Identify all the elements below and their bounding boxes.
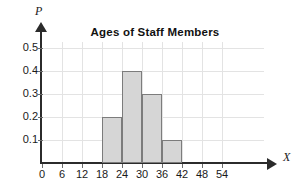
x-axis-label: X (283, 150, 290, 165)
y-axis-tick-mark (38, 140, 43, 141)
y-axis-tick-mark (38, 117, 43, 118)
gridline-horizontal (42, 48, 264, 49)
gridline-horizontal (42, 71, 264, 72)
y-axis-tick-mark (38, 94, 43, 95)
y-axis-tick-mark (38, 48, 43, 49)
gridline-vertical (182, 42, 183, 163)
gridline-vertical (222, 42, 223, 163)
gridline-vertical (202, 42, 203, 163)
x-axis-tick-label: 54 (210, 168, 234, 180)
y-axis-tick-label: 0.1 (4, 134, 38, 145)
x-axis-arrowhead-icon (267, 158, 277, 170)
histogram-bar (102, 117, 122, 163)
y-axis-tick-mark (38, 71, 43, 72)
y-axis-tick-label: 0.2 (4, 111, 38, 122)
histogram-bar (142, 94, 162, 163)
histogram-bar (162, 140, 182, 163)
chart-container: Ages of Staff Members P X 0.10.20.30.40.… (0, 0, 304, 195)
y-axis-line (40, 30, 42, 164)
y-axis-tick-labels: 0.10.20.30.40.5 (0, 0, 38, 195)
y-axis-tick-label: 0.4 (4, 65, 38, 76)
y-axis-tick-label: 0.3 (4, 88, 38, 99)
histogram-bar (122, 71, 142, 163)
y-axis-tick-label: 0.5 (4, 42, 38, 53)
gridline-vertical (82, 42, 83, 163)
chart-title: Ages of Staff Members (60, 26, 250, 38)
gridline-vertical (62, 42, 63, 163)
